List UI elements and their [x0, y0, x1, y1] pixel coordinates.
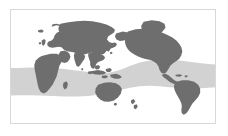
figure-container	[0, 0, 228, 136]
map-frame	[10, 9, 216, 124]
world-map	[11, 10, 215, 123]
